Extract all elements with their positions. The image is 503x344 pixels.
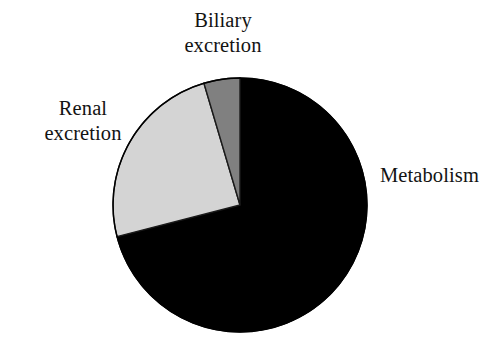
pie-label-biliary-line1: Biliary <box>148 8 298 33</box>
pie-label-biliary-line2: excretion <box>148 33 298 58</box>
pie-label-metabolism-line1: Metabolism <box>380 163 479 188</box>
pie-chart-figure: Biliary excretion Renal excretion Metabo… <box>0 0 503 344</box>
pie-label-renal-line2: excretion <box>13 121 153 146</box>
pie-label-metabolism: Metabolism <box>380 163 479 188</box>
pie-label-renal-line1: Renal <box>13 96 153 121</box>
pie-label-renal-excretion: Renal excretion <box>13 96 153 146</box>
pie-label-biliary-excretion: Biliary excretion <box>148 8 298 58</box>
